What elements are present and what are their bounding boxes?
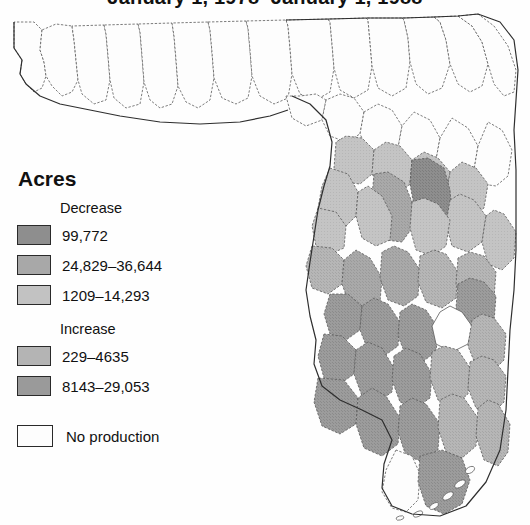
legend-label-increase-low: 229–4635 <box>62 349 129 364</box>
legend-item-increase-high: 8143–29,053 <box>14 372 209 400</box>
legend-spacer <box>14 311 209 320</box>
map-figure: January 1, 1978–January 1, 1988 <box>0 0 530 525</box>
legend-heading: Acres <box>18 168 209 189</box>
county-area <box>380 246 420 306</box>
county-area <box>318 334 356 384</box>
county-area <box>418 250 458 308</box>
legend-swatch-decrease-low <box>17 285 51 305</box>
legend-item-decrease-high: 99,772 <box>14 221 209 249</box>
county-area <box>314 378 358 434</box>
legend-item-increase-low: 229–4635 <box>14 342 209 370</box>
map-region-panhandle <box>14 20 292 108</box>
legend-item-decrease-mid: 24,829–36,644 <box>14 251 209 279</box>
legend-label-decrease-low: 1209–14,293 <box>62 288 150 303</box>
legend-group-increase: Increase 229–4635 8143–29,053 <box>14 320 209 400</box>
legend-swatch-increase-high <box>17 376 51 396</box>
legend-group-decrease: Decrease 99,772 24,829–36,644 1209–14,29… <box>14 199 209 309</box>
legend-label-no-production: No production <box>66 429 159 444</box>
county-area <box>438 394 478 458</box>
map-region-south <box>314 294 510 521</box>
legend-label-decrease-high: 99,772 <box>62 228 108 243</box>
legend-item-no-production: No production <box>14 422 209 450</box>
legend: Acres Decrease 99,772 24,829–36,644 1209… <box>14 168 209 452</box>
legend-swatch-decrease-mid <box>17 255 51 275</box>
legend-swatch-no-production <box>17 425 53 447</box>
legend-group-label-increase: Increase <box>60 320 209 338</box>
legend-label-increase-high: 8143–29,053 <box>62 379 150 394</box>
county-area-no-production <box>382 450 420 512</box>
county-area <box>476 400 510 466</box>
legend-swatch-decrease-high <box>17 225 51 245</box>
legend-label-decrease-mid: 24,829–36,644 <box>62 258 162 273</box>
legend-item-decrease-low: 1209–14,293 <box>14 281 209 309</box>
county-area <box>356 388 400 456</box>
legend-swatch-increase-low <box>17 346 51 366</box>
legend-group-label-decrease: Decrease <box>60 199 209 217</box>
